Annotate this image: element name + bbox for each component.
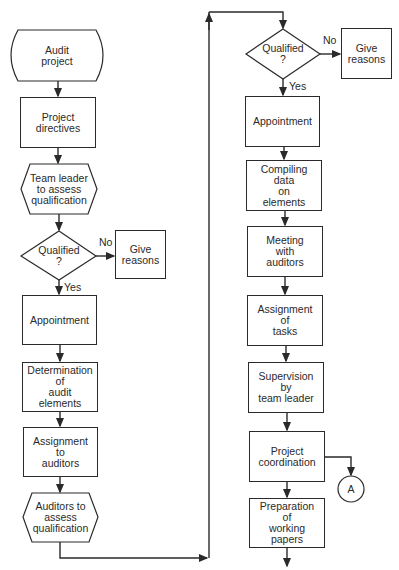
left-give-reasons-box: Give reasons (115, 230, 166, 279)
right-qualified-decision: Qualified ? (246, 34, 320, 74)
compiling-data-box: Compiling data on elements (246, 160, 322, 211)
left-appointment-box: Appointment (22, 295, 97, 345)
auditors-assess-hexagon: Auditors to assess qualification (23, 493, 98, 542)
right-appointment-box: Appointment (245, 96, 320, 147)
right-yes-label: Yes (289, 80, 306, 92)
project-directives-box: Project directives (20, 97, 96, 148)
right-give-reasons-box: Give reasons (341, 28, 392, 79)
connector-a: A (338, 476, 364, 502)
audit-project-terminator: Audit project (9, 30, 105, 81)
right-no-label: No (323, 34, 336, 46)
supervision-box: Supervision by team leader (248, 362, 324, 413)
preparation-working-papers-box: Preparation of working papers (249, 498, 325, 548)
left-yes-label: Yes (64, 281, 81, 293)
project-coordination-box: Project coordination (249, 431, 325, 482)
determination-audit-elements-box: Determination of audit elements (22, 362, 98, 412)
meeting-with-auditors-box: Meeting with auditors (247, 226, 323, 277)
team-leader-assess-hexagon: Team leader to assess qualification (21, 164, 97, 214)
assignment-of-tasks-box: Assignment of tasks (247, 295, 323, 346)
left-qualified-decision: Qualified ? (21, 236, 97, 276)
left-no-label: No (99, 236, 112, 248)
assignment-to-auditors-box: Assignment to auditors (23, 427, 98, 477)
